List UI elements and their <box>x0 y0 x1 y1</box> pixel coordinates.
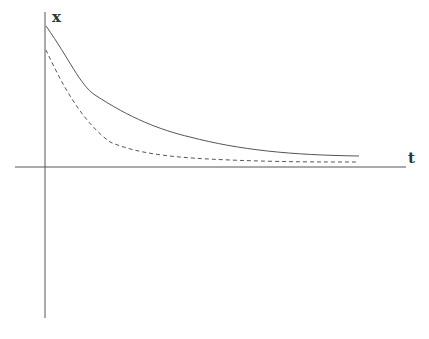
x-axis-label: t <box>408 149 415 167</box>
solid-curve <box>46 26 359 156</box>
decay-diagram: x t <box>0 0 429 339</box>
dashed-curve <box>46 50 357 162</box>
y-axis-label: x <box>52 8 62 26</box>
